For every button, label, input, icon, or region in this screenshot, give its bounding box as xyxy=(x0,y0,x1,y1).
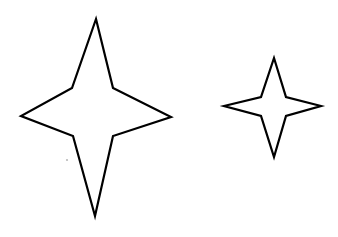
stars-figure xyxy=(0,0,338,237)
scan-speck xyxy=(66,159,68,161)
figure-canvas xyxy=(0,0,338,237)
